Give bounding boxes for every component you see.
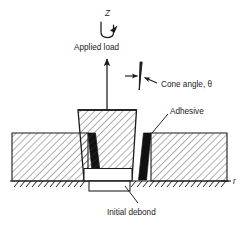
adhesive-layer-right (139, 133, 152, 180)
cross-section-diagram: Z Applied load (0, 0, 240, 225)
cone-angle-label: Cone angle, θ (161, 80, 212, 89)
figure-container: Z Applied load (0, 0, 240, 225)
adhesive-leader-line (152, 114, 168, 133)
torsion-arrow-icon (101, 22, 118, 38)
applied-load-label: Applied load (74, 43, 120, 52)
axis-label-z: Z (104, 9, 111, 18)
initial-debond-leader-line (125, 186, 138, 203)
ground-support-hatch-right (131, 181, 226, 187)
plate-right (151, 133, 227, 181)
cone-angle-sliver (139, 62, 142, 90)
plate-left (12, 133, 88, 181)
adhesive-label: Adhesive (170, 107, 204, 116)
ground-support-hatch-left (14, 181, 85, 187)
axis-label-r: r (233, 177, 236, 186)
initial-debond-label: Initial debond (107, 208, 156, 217)
initial-debond-region (84, 169, 132, 192)
